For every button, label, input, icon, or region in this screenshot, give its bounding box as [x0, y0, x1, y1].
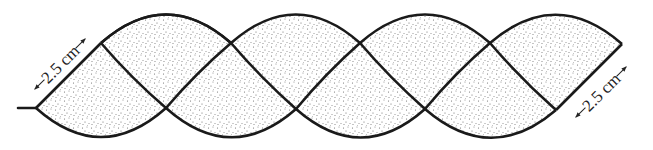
- shaded-region: [36, 15, 622, 138]
- diagram: 2.5 cm 2.5 cm: [0, 0, 653, 150]
